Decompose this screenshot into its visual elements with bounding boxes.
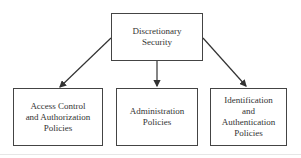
node-label: Discretionary Security [133,26,182,48]
edge-root-to-identification [203,38,246,86]
bottom-divider [0,154,301,155]
node-label: Access Control and Authorization Policie… [26,101,91,134]
node-access-control-authorization: Access Control and Authorization Policie… [13,88,103,146]
node-administration-policies: Administration Policies [116,88,198,146]
node-label: Identification and Authentication Polici… [222,95,276,139]
node-label: Administration Policies [130,106,185,128]
edge-root-to-access-control [60,38,111,87]
node-discretionary-security: Discretionary Security [111,13,203,61]
node-identification-authentication: Identification and Authentication Polici… [210,88,287,146]
